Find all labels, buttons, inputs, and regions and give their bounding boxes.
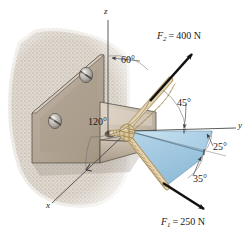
force-arrow-F2 [150, 54, 192, 101]
force-unit-F2: N [194, 30, 201, 41]
rope-knot [120, 124, 135, 141]
angle-label-25: 25° [213, 142, 227, 152]
bolt-upper [79, 67, 92, 82]
force-label-F2: F2=400 N [157, 31, 201, 43]
axis-label-y: y [238, 121, 242, 130]
angle-label-120: 120° [88, 117, 107, 127]
axis-label-z: z [104, 7, 108, 16]
force-label-F1: F1=250 N [161, 217, 205, 229]
force-magnitude-F2: 400 [176, 30, 191, 41]
angle-label-60: 60° [121, 55, 135, 65]
angle-label-35: 35° [193, 174, 207, 184]
force-arrow-F1 [163, 183, 204, 209]
angle-label-45: 45° [177, 98, 191, 108]
force-equals-F2: = [167, 30, 177, 41]
statics-figure: z y x 60° 45° 120° 25° 35° F2=400 N F1=2… [0, 0, 250, 233]
figure-canvas [0, 0, 250, 233]
force-magnitude-F1: 250 [180, 216, 195, 227]
force-equals-F1: = [171, 216, 181, 227]
bolt-lower [48, 113, 61, 128]
axis-label-x: x [46, 201, 50, 210]
force-unit-F1: N [198, 216, 205, 227]
